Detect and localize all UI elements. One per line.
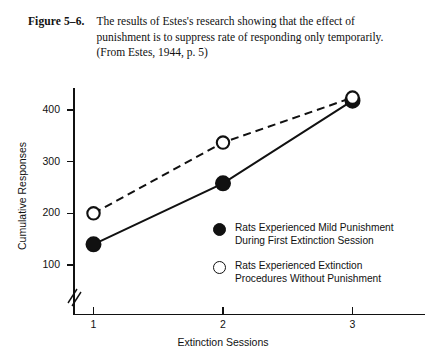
legend-line-2: Procedures Without Punishment xyxy=(235,273,381,286)
legend-line-1: Rats Experienced Extinction xyxy=(235,260,381,273)
legend-item-punishment: Rats Experienced Mild Punishment During … xyxy=(213,222,418,247)
legend-item-no-punishment: Rats Experienced Extinction Procedures W… xyxy=(213,260,418,285)
filled-circle-icon xyxy=(213,223,226,236)
chart-legend: Rats Experienced Mild Punishment During … xyxy=(213,222,418,298)
series-line-1 xyxy=(94,98,353,214)
legend-line-2: During First Extinction Session xyxy=(235,235,394,248)
data-series-layer xyxy=(0,0,439,358)
legend-label-punishment: Rats Experienced Mild Punishment During … xyxy=(235,222,394,247)
open-data-point-x1 xyxy=(87,207,99,219)
plot-area: 100200300400 123 Cumulative Responses Ex… xyxy=(0,0,439,358)
filled-data-point-x2 xyxy=(216,176,230,190)
legend-line-1: Rats Experienced Mild Punishment xyxy=(235,222,394,235)
open-circle-icon xyxy=(213,261,226,274)
legend-label-no-punishment: Rats Experienced Extinction Procedures W… xyxy=(235,260,381,285)
open-data-point-x2 xyxy=(217,136,229,148)
filled-data-point-x1 xyxy=(87,237,101,251)
open-data-point-x3 xyxy=(346,91,358,103)
figure-container: Figure 5–6. The results of Estes's resea… xyxy=(0,0,439,358)
